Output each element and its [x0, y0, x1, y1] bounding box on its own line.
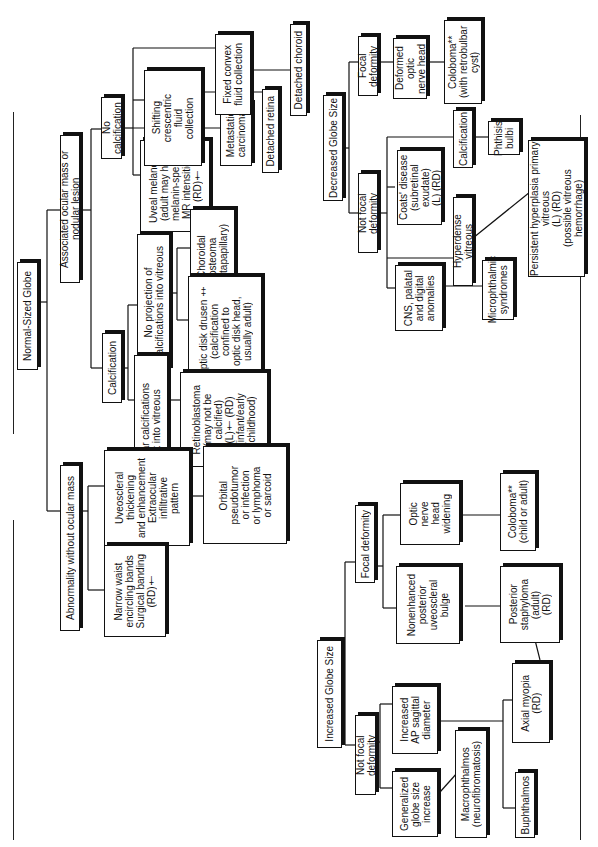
node-decreased-not-focal: Not focal deformity	[358, 173, 378, 253]
node-decreased-globe-size: Decreased Globe Size	[323, 95, 343, 201]
node-no-projection: No projection of calcifications into vit…	[137, 234, 170, 371]
node-label: Orbital pseudotumor or infection or lymp…	[218, 466, 273, 524]
node-generalized-globe-increase: Generalized globe size increase	[392, 771, 438, 837]
node-label: Generalized globe size increase	[399, 777, 432, 831]
node-label: Associated ocular mass or nodular lesion	[59, 136, 81, 282]
node-cns-anomalies: CNS, palatal and digital anomalies	[395, 265, 443, 331]
node-label: Buphthalmos	[520, 776, 531, 834]
node-label: Detached retina	[265, 96, 276, 167]
node-label: Not focal deformity	[355, 716, 377, 794]
node-label: Macrophthalmos (neurofibromatosis)	[460, 741, 482, 827]
node-label: Nonenhanced posterior uveoscleral bulge	[406, 574, 450, 636]
node-no-calcification: No calcification	[101, 97, 122, 159]
node-label: Microphthalmic syndromes	[487, 256, 509, 323]
node-label: Posterior staphyloma (adult) (RD)	[508, 579, 552, 630]
node-nonenhanced-bulge: Nonenhanced posterior uveoscleral bulge	[396, 566, 460, 644]
node-label: Uveoscleral thickening and enhancement E…	[114, 458, 180, 538]
node-fixed-fluid: Fixed convex fluid collection	[215, 34, 251, 115]
node-orbital-pseudotumor: Orbital pseudotumor or infection or lymp…	[203, 446, 287, 544]
node-decreased-focal-deformity: Focal deformity	[358, 36, 378, 96]
node-label: Focal deformity	[357, 37, 379, 95]
node-abnormality-without-mass: Abnormality without ocular mass	[60, 465, 80, 631]
node-label: No calcification	[101, 98, 123, 158]
node-label: Not focal deformity	[357, 174, 379, 252]
node-label: Axial myopia (RD)	[520, 675, 542, 732]
node-calcification-normal: Calcification	[102, 333, 122, 403]
node-label: Coloboma** (child or adult)	[507, 480, 529, 543]
node-narrow-waist: Narrow waist encircling bands Surgical b…	[104, 545, 166, 637]
node-phthisis-bulbi: Phthisis bulbi	[488, 121, 520, 155]
node-label: Shifting crescentric fluid collection	[151, 94, 195, 142]
node-label: Optic nerve head widening	[408, 494, 452, 533]
node-associated-ocular-mass: Associated ocular mass or nodular lesion	[60, 135, 80, 283]
node-label: Phthisis bulbi	[493, 121, 515, 156]
node-normal-sized-globe: Normal-Sized Globe	[17, 262, 38, 370]
node-increased-globe-size: Increased Globe Size	[317, 640, 342, 748]
node-label: Focal deformity	[360, 510, 371, 578]
node-increased-not-focal: Not focal deformity	[355, 715, 376, 795]
node-posterior-staphyloma: Posterior staphyloma (adult) (RD)	[500, 566, 560, 643]
node-coats-disease: Coats' disease (subretinal exudate) (L) …	[397, 150, 442, 225]
node-label: No projection of calcifications into vit…	[143, 246, 165, 359]
node-detached-retina: Detached retina	[262, 89, 279, 173]
node-label: Calcification	[107, 341, 118, 395]
node-label: Abnormality without ocular mass	[65, 476, 76, 620]
node-increased-ap-diameter: Increased AP sagittal diameter	[392, 686, 438, 754]
node-axial-myopia: Axial myopia (RD)	[512, 663, 550, 743]
node-label: Metastatic carcinoma	[225, 111, 247, 157]
node-optic-nerve-head-widening: Optic nerve head widening	[400, 483, 460, 545]
node-macrophthalmos: Macrophthalmos (neurofibromatosis)	[455, 730, 487, 838]
node-label: Increased Globe Size	[324, 646, 335, 742]
node-coloboma-retrobulbar: Coloboma** (with retrobulbar cyst)	[444, 20, 482, 104]
node-label: Optic disk drusen ‡ (calcification confi…	[198, 286, 253, 377]
node-microphthalmic-syndromes: Microphthalmic syndromes	[482, 260, 514, 320]
node-label: Deformed optic nerve head	[394, 39, 427, 98]
node-label: Coloboma** (with retrobulbar cyst)	[447, 21, 480, 103]
node-deformed-optic-nerve-head: Deformed optic nerve head	[393, 38, 427, 99]
node-increased-focal-deformity: Focal deformity	[355, 505, 375, 583]
node-label: Coats' disease (subretinal exudate) (L) …	[398, 151, 442, 224]
node-label: CNS, palatal and digital anomalies	[403, 270, 436, 326]
node-hyperdense-vitreous: Hyperdense vitreous	[453, 197, 473, 286]
node-label: Retinoblastoma (may not be calcified) (L…	[191, 385, 257, 454]
node-label: Normal-Sized Globe	[22, 271, 33, 361]
node-coloboma-child-adult: Coloboma** (child or adult)	[500, 473, 536, 551]
node-detached-choroid: Detached choroid	[290, 24, 307, 116]
node-label: Hyperdense vitreous	[452, 198, 474, 285]
node-calcification-decreased: Calcification	[453, 110, 473, 168]
node-label: Detached choroid	[293, 31, 304, 109]
node-buphthalmos: Buphthalmos	[515, 772, 535, 838]
node-label: Increased AP sagittal diameter	[399, 696, 432, 744]
node-label: Narrow waist encircling bands Surgical b…	[113, 554, 157, 629]
flowchart-canvas: Normal-Sized Globe Associated ocular mas…	[0, 0, 598, 847]
node-uveoscleral-thickening: Uveoscleral thickening and enhancement E…	[104, 450, 190, 546]
node-label: Decreased Globe Size	[328, 98, 339, 198]
node-shifting-fluid: Shifting crescentric fluid collection	[144, 70, 202, 166]
node-label: Calcification	[458, 112, 469, 166]
node-persistent-hyperplasia: Persistent hyperplasia primary vitreous …	[528, 140, 585, 277]
node-label: Persistent hyperplasia primary vitreous …	[529, 141, 584, 276]
node-label: Fixed convex fluid collection	[222, 43, 244, 106]
